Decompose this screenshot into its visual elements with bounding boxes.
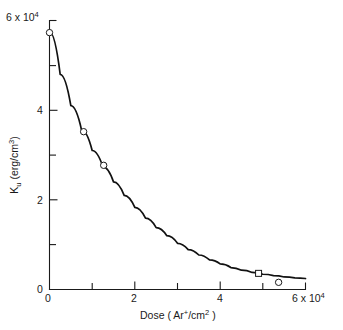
plot-canvas	[0, 0, 343, 330]
x-tick-label-0: 0	[45, 293, 51, 304]
x-tick-label-6: 6 x 104	[292, 293, 325, 304]
data-point-markers	[46, 29, 282, 285]
y-tick-label-2: 2	[37, 195, 43, 206]
y-axis-title-text: Ku (erg/cm3)	[8, 136, 20, 193]
y-axis-title: Ku (erg/cm3)	[6, 110, 22, 220]
decay-curve	[50, 32, 306, 279]
data-point-square	[256, 270, 262, 276]
data-point-circle	[275, 279, 281, 285]
y-tick-label-4: 4	[37, 105, 43, 116]
chart-figure: 6 x 104 4 2 0 0 2 4 6 x 104 Ku (erg/cm3)…	[0, 0, 343, 330]
x-tick-label-2: 2	[131, 293, 137, 304]
data-point-circle	[80, 128, 86, 134]
x-axis-title: Dose ( Ar+/cm2 )	[140, 310, 216, 321]
y-tick-label-6: 6 x 104	[6, 12, 39, 23]
y-tick-label-0: 0	[37, 284, 43, 295]
data-point-circle	[46, 29, 52, 35]
data-point-circle	[100, 162, 106, 168]
x-tick-label-4: 4	[217, 293, 223, 304]
